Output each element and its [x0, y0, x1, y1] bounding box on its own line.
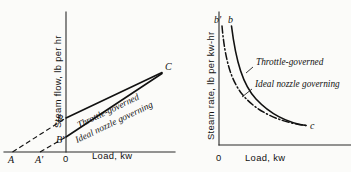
left-origin-label: 0 — [63, 153, 68, 164]
right-point-label-b-prime: b' — [214, 14, 222, 25]
right-origin-label: 0 — [216, 152, 221, 163]
right-x-axis-title: Load, kw — [245, 152, 285, 163]
right-label-ideal-nozzle-governing: Ideal nozzle governing — [254, 79, 340, 89]
right-y-axis-title: Steam rate, lb per kw-hr — [205, 32, 216, 140]
left-x-axis-title: Load, kw — [92, 150, 132, 161]
right-point-label-b: b — [228, 14, 233, 25]
left-point-label-a: A — [7, 154, 15, 165]
chart-steam-rate-vs-load: Steam rate, lb per kw-hr Load, kw 0 Thro… — [176, 0, 351, 172]
left-chart-svg: Steam flow, lb per hr Load, kw 0 Throttl… — [0, 0, 176, 172]
left-point-label-b: B — [57, 113, 63, 124]
right-chart-svg: Steam rate, lb per kw-hr Load, kw 0 Thro… — [176, 0, 351, 172]
left-point-label-c: C — [165, 61, 172, 72]
left-point-label-b-prime: B' — [56, 134, 65, 145]
right-point-label-c: c — [310, 120, 315, 131]
chart-steam-flow-vs-load: Steam flow, lb per hr Load, kw 0 Throttl… — [0, 0, 176, 172]
right-label-throttle-governed: Throttle-governed — [256, 57, 324, 67]
right-ideal-nozzle-curve — [222, 26, 306, 126]
left-point-label-a-prime: A' — [34, 154, 44, 165]
right-throttle-governed-curve — [232, 26, 307, 126]
figure-root: Steam flow, lb per hr Load, kw 0 Throttl… — [0, 0, 351, 172]
right-leader-throttle — [246, 67, 253, 73]
